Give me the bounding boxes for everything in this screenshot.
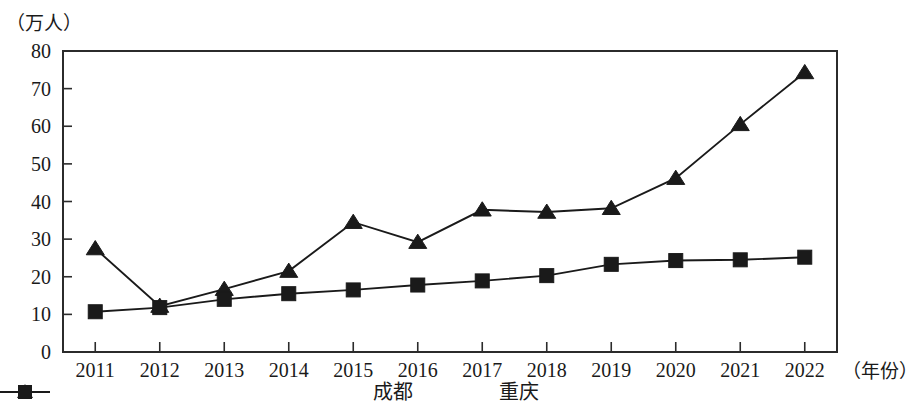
line-chart: （万人） （年份） 01020304050607080 201120122013…	[0, 0, 911, 415]
square-marker-icon	[0, 382, 50, 402]
data-point-marker	[798, 250, 812, 264]
plot-area-frame	[63, 51, 837, 352]
legend-item-chongqing[interactable]: 重庆	[499, 382, 539, 402]
data-point-marker	[411, 278, 425, 292]
y-axis-ticks	[63, 89, 72, 315]
x-axis-ticks	[95, 342, 805, 352]
data-point-marker	[475, 274, 489, 288]
data-point-marker	[153, 301, 167, 315]
data-point-marker	[796, 64, 814, 78]
series-line-1	[95, 257, 805, 312]
data-point-marker	[346, 283, 360, 297]
series-line-0	[95, 72, 805, 306]
data-point-marker	[86, 241, 104, 255]
data-point-marker	[602, 200, 620, 214]
data-point-marker	[217, 292, 231, 306]
data-point-marker	[282, 287, 296, 301]
legend-label-chengdu: 成都	[373, 382, 413, 402]
data-point-marker	[604, 257, 618, 271]
data-point-marker	[344, 214, 362, 228]
chart-canvas	[0, 0, 911, 415]
data-point-marker	[540, 269, 554, 283]
data-point-marker	[669, 254, 683, 268]
legend-label-chongqing: 重庆	[499, 382, 539, 402]
data-point-marker	[88, 305, 102, 319]
data-series-layer	[86, 64, 814, 318]
data-point-marker	[409, 234, 427, 248]
data-point-marker	[733, 253, 747, 267]
data-point-marker	[473, 202, 491, 216]
legend-item-chengdu[interactable]: 成都	[373, 382, 413, 402]
chart-legend: 成都 重庆	[0, 382, 911, 402]
